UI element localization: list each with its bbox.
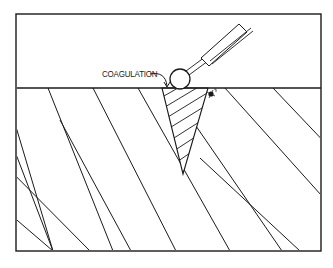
electrode-ball xyxy=(170,69,190,89)
diagram-frame xyxy=(16,14,321,251)
coagulation-zone xyxy=(150,84,215,180)
coagulation-label: COAGULATION xyxy=(102,69,157,79)
diagram-canvas xyxy=(0,0,333,268)
cautery-probe xyxy=(170,24,253,89)
debris-mark xyxy=(207,89,216,98)
